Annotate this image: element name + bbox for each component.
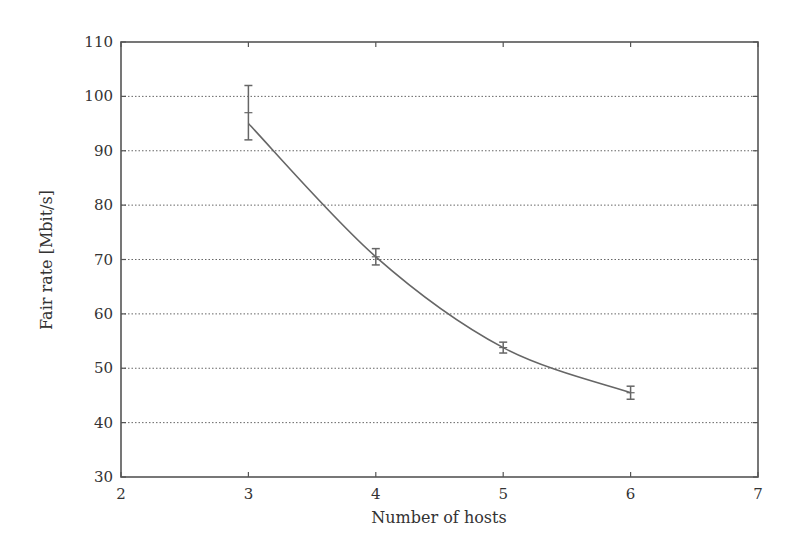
y-axis-label: Fair rate [Mbit/s] [37, 190, 56, 330]
y-tick-label: 100 [84, 87, 113, 105]
x-axis-label: Number of hosts [371, 508, 506, 527]
y-tick-label: 60 [94, 305, 113, 323]
error-bar [244, 86, 252, 140]
fit-curve [248, 124, 630, 393]
y-tick-label: 90 [94, 142, 113, 160]
y-tick-label: 50 [94, 359, 113, 377]
x-tick-label: 7 [753, 485, 763, 503]
gridlines [121, 96, 758, 422]
error-bar [499, 342, 507, 353]
error-bars [244, 86, 634, 400]
x-tick-label: 5 [498, 485, 508, 503]
y-tick-label: 30 [94, 468, 113, 486]
x-tick-label: 3 [244, 485, 254, 503]
y-tick-label: 80 [94, 196, 113, 214]
x-axis-ticks: 234567 [116, 42, 763, 503]
error-bar [627, 386, 635, 399]
y-tick-label: 70 [94, 251, 113, 269]
chart: 234567 30405060708090100110 Number of ho… [0, 0, 803, 555]
y-tick-label: 110 [84, 33, 113, 51]
x-tick-label: 4 [371, 485, 381, 503]
error-bar [372, 249, 380, 265]
x-tick-label: 2 [116, 485, 126, 503]
x-tick-label: 6 [626, 485, 636, 503]
y-tick-label: 40 [94, 414, 113, 432]
